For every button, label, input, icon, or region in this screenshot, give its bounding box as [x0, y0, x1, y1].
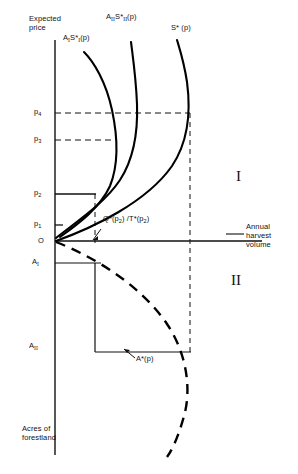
tick-label-p4: p4 [34, 107, 42, 119]
acres-forestland-axis-label: Acres of forestland [22, 424, 56, 442]
tick-label-a-one: AI [32, 257, 39, 269]
annual-harvest-volume-axis-label: Annual harvest volume [246, 222, 271, 249]
expected-price-axis-label: Expected price [29, 14, 61, 32]
curve-label-aii-sii: AIIS*II(p) [106, 12, 137, 24]
curve-label-s-star: S* (p) [171, 23, 191, 32]
tick-label-p2: p2 [34, 188, 42, 200]
annotation-a-star: A*(p) [136, 354, 154, 363]
tick-label-p1: p1 [34, 219, 42, 231]
annotation-q-t-ratio: Q*(p2) /T*(p2) [103, 214, 149, 226]
tick-label-p3: p3 [34, 134, 42, 146]
region-label-one: I [236, 168, 241, 185]
tick-label-a-two: AII [29, 341, 38, 353]
curve-label-ai-si: AIS*I(p) [63, 33, 90, 45]
region-label-two: II [231, 272, 241, 289]
curve-a-star-path [56, 242, 187, 457]
origin-label: O [38, 236, 44, 245]
curve-ai-si-path [60, 52, 116, 237]
